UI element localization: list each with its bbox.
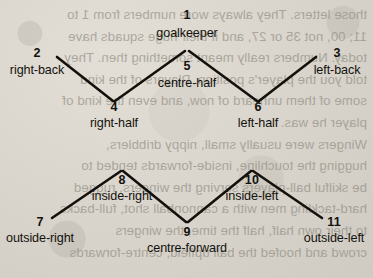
- position-label-centre-forward: centre-forward: [147, 241, 227, 255]
- position-label-inside-right: inside-right: [92, 189, 152, 203]
- bleed-through-line: hard-tackling men with a cannonball shot…: [6, 198, 367, 220]
- position-number-goalkeeper: 1: [183, 9, 190, 22]
- position-number-inside-left: 10: [245, 174, 259, 187]
- position-number-left-half: 6: [254, 101, 261, 114]
- position-number-centre-half: 5: [183, 60, 190, 73]
- position-number-outside-right: 7: [36, 216, 43, 229]
- position-number-inside-right: 8: [118, 174, 125, 187]
- bleed-through-line: Wingers were usually small, nippy dribbl…: [6, 134, 367, 156]
- position-number-right-half: 4: [110, 101, 117, 114]
- connector-left-half-to-left-back: [259, 57, 316, 101]
- position-label-goalkeeper: goalkeeper: [156, 26, 217, 40]
- position-label-right-back: right-back: [10, 63, 64, 77]
- bleed-through-line: player he was.: [6, 112, 367, 134]
- position-label-right-half: right-half: [90, 116, 138, 130]
- position-label-outside-right: outside-right: [6, 231, 74, 245]
- position-number-right-back: 2: [33, 47, 40, 60]
- position-label-centre-half: centre-half: [158, 76, 216, 90]
- position-number-outside-left: 11: [327, 216, 341, 229]
- position-label-inside-left: inside-left: [226, 189, 279, 203]
- scanned-page: those letters. They always wore numbers …: [0, 0, 373, 278]
- position-number-centre-forward: 9: [183, 226, 190, 239]
- bleed-through-line: some of them unheard of now, and even th…: [6, 90, 367, 112]
- position-label-outside-left: outside-left: [304, 231, 364, 245]
- bleed-through-line: be skilful ball-players serving the wing…: [6, 177, 367, 199]
- bleed-through-line: hugging the touchline, inside-forwards t…: [6, 155, 367, 177]
- position-number-left-back: 3: [333, 47, 340, 60]
- position-label-left-half: left-half: [238, 116, 278, 130]
- connector-right-back-to-right-half: [57, 57, 113, 101]
- position-label-left-back: left-back: [314, 63, 361, 77]
